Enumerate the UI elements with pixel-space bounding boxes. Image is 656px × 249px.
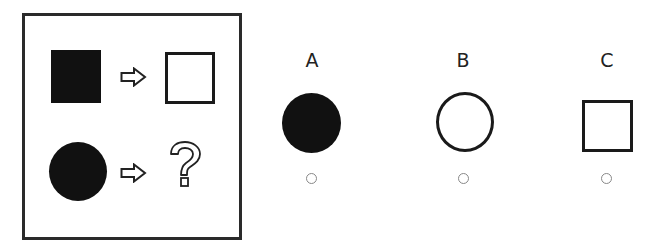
option-a-label: A xyxy=(297,49,327,71)
option-b-outline-circle[interactable] xyxy=(436,92,494,152)
option-a-radio[interactable] xyxy=(306,173,317,184)
puzzle-panel xyxy=(22,13,242,240)
filled-circle-shape xyxy=(49,142,107,201)
option-a-filled-circle[interactable] xyxy=(282,93,341,153)
outline-square-shape xyxy=(165,52,215,104)
hollow-right-arrow-icon xyxy=(120,163,147,183)
option-c-radio[interactable] xyxy=(601,173,612,184)
option-c-label: C xyxy=(592,49,622,71)
question-mark-icon xyxy=(166,140,204,190)
hollow-right-arrow-icon xyxy=(120,67,147,87)
option-b-radio[interactable] xyxy=(458,173,469,184)
option-c-outline-square[interactable] xyxy=(582,100,633,152)
option-b-label: B xyxy=(448,49,478,71)
filled-square-shape xyxy=(51,50,101,103)
